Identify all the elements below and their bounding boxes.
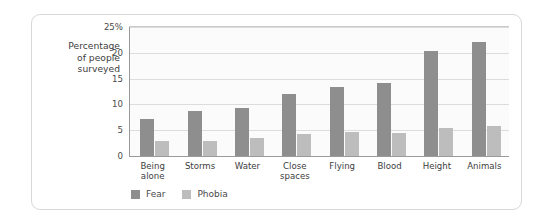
legend-item-fear[interactable]: Fear — [131, 189, 165, 199]
bar-fear-storms — [188, 111, 202, 156]
y-tick-label: 0 — [81, 151, 123, 161]
bar-fear-water — [235, 108, 249, 157]
bar-fear-being-alone — [140, 119, 154, 156]
y-tick-label: 25% — [81, 22, 123, 32]
bar-fear-animals — [472, 42, 486, 156]
x-tick-label-animals: Animals — [457, 161, 512, 171]
legend-label: Phobia — [197, 189, 227, 199]
legend-label: Fear — [146, 189, 165, 199]
y-tick-label: 5 — [81, 125, 123, 135]
dark-gray-swatch — [131, 190, 140, 199]
gridline — [130, 104, 509, 105]
bar-phobia-animals — [487, 126, 501, 156]
y-tick-label: 15 — [81, 74, 123, 84]
bar-phobia-height — [439, 128, 453, 156]
bar-fear-height — [424, 51, 438, 156]
y-tick-label: 20 — [81, 48, 123, 58]
gridline — [130, 79, 509, 80]
bar-phobia-flying — [345, 132, 359, 156]
gridline — [130, 27, 509, 28]
bar-fear-flying — [330, 87, 344, 156]
legend-item-phobia[interactable]: Phobia — [182, 189, 227, 199]
bar-phobia-storms — [203, 141, 217, 156]
chart-figure: Percentage of people surveyed 0510152025… — [0, 0, 549, 221]
chart-legend: FearPhobia — [131, 189, 228, 199]
bar-phobia-close-spaces — [297, 134, 311, 156]
bar-phobia-blood — [392, 133, 406, 156]
light-gray-swatch — [182, 190, 191, 199]
bar-phobia-water — [250, 138, 264, 156]
bar-fear-close-spaces — [282, 94, 296, 156]
y-tick-label: 10 — [81, 99, 123, 109]
bar-phobia-being-alone — [155, 141, 169, 156]
plot-area — [129, 27, 509, 157]
bar-fear-blood — [377, 83, 391, 156]
gridline — [130, 53, 509, 54]
